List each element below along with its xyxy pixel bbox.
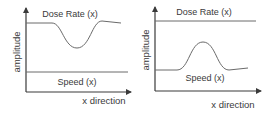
right-dose-label: Dose Rate (x)	[176, 7, 232, 17]
left-panel: Dose Rate (x) Speed (x) x direction ampl…	[11, 8, 131, 106]
diagram-canvas: Dose Rate (x) Speed (x) x direction ampl…	[0, 0, 271, 122]
left-dose-rate-curve	[26, 21, 121, 48]
left-speed-label: Speed (x)	[57, 77, 96, 87]
right-speed-curve	[155, 42, 248, 70]
right-speed-label: Speed (x)	[185, 73, 224, 83]
left-x-axis-label: x direction	[82, 95, 125, 106]
right-y-axis-label: amplitude	[140, 29, 151, 70]
left-y-axis-label: amplitude	[11, 31, 22, 72]
left-dose-label: Dose Rate (x)	[42, 9, 98, 19]
right-panel: Dose Rate (x) Speed (x) x direction ampl…	[140, 7, 261, 110]
right-x-axis-label: x direction	[211, 99, 254, 110]
